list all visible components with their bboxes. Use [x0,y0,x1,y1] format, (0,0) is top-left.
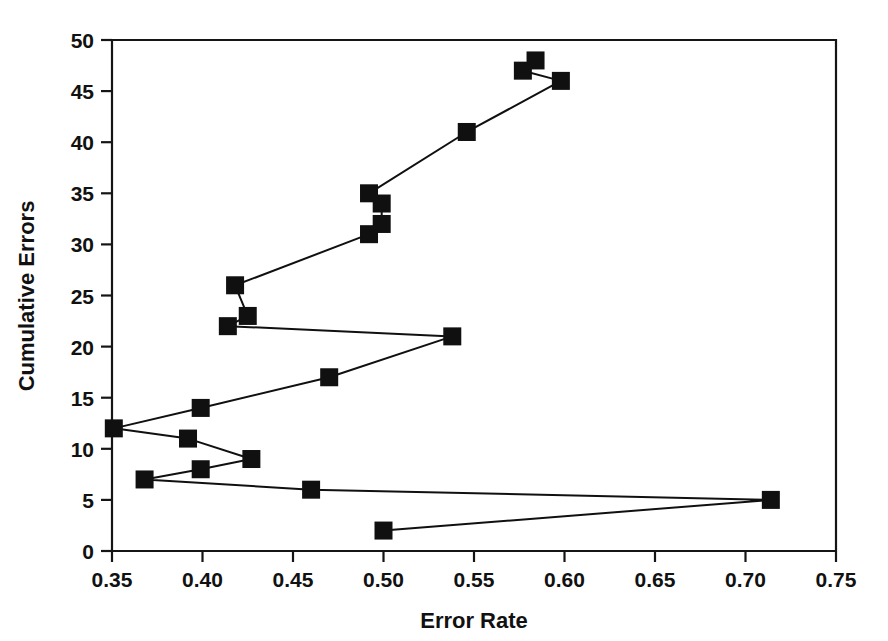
data-point-marker [192,399,210,417]
x-axis-tick-labels: 0.350.400.450.500.550.600.650.700.75 [92,568,857,591]
x-tick-label: 0.50 [363,568,404,591]
data-point-marker [239,307,257,325]
x-tick-label: 0.40 [182,568,223,591]
data-point-marker [320,368,338,386]
data-point-marker [242,450,260,468]
y-tick-label: 20 [71,336,94,359]
scatter-line-chart: 0.350.400.450.500.550.600.650.700.75 051… [0,0,888,641]
y-tick-label: 10 [71,438,94,461]
data-point-marker [105,419,123,437]
x-tick-label: 0.70 [725,568,766,591]
data-point-marker [458,123,476,141]
data-point-marker [443,327,461,345]
y-tick-label: 45 [71,80,95,103]
data-point-marker [360,184,378,202]
data-point-marker [219,317,237,335]
y-tick-label: 0 [82,540,94,563]
y-axis-title: Cumulative Errors [14,201,39,392]
y-tick-label: 40 [71,131,94,154]
y-tick-label: 35 [71,182,95,205]
data-point-marker [762,491,780,509]
x-axis-title: Error Rate [420,608,528,633]
x-tick-label: 0.35 [92,568,133,591]
data-point-marker [136,470,154,488]
x-tick-label: 0.60 [544,568,585,591]
data-point-marker [192,460,210,478]
chart-container: 0.350.400.450.500.550.600.650.700.75 051… [0,0,888,641]
x-tick-label: 0.55 [454,568,495,591]
chart-background [0,0,888,641]
data-point-marker [302,481,320,499]
y-tick-label: 5 [82,489,94,512]
data-point-marker [226,276,244,294]
data-point-marker [373,215,391,233]
y-tick-label: 50 [71,29,94,52]
y-tick-label: 15 [71,387,95,410]
y-tick-label: 30 [71,233,94,256]
data-point-marker [552,72,570,90]
x-tick-label: 0.65 [635,568,676,591]
data-point-marker [527,51,545,69]
data-point-marker [375,522,393,540]
data-point-marker [179,430,197,448]
x-tick-label: 0.45 [273,568,314,591]
y-tick-label: 25 [71,285,95,308]
x-tick-label: 0.75 [816,568,857,591]
